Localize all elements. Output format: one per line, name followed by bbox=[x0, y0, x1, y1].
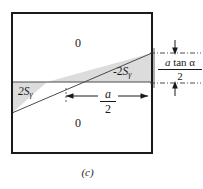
dimension-label-a-tan-alpha-over-2: a tan α 2 bbox=[158, 57, 202, 83]
right-shaded-wedge bbox=[47, 53, 152, 82]
fraction-denominator: 2 bbox=[158, 70, 202, 82]
region-label-negative-2s-gamma: -2Sγ bbox=[113, 66, 132, 79]
region-label-bottom-zero: 0 bbox=[75, 117, 81, 129]
label-subscript-gamma: γ bbox=[128, 70, 131, 79]
figure-container: 0 0 -2Sγ 2Sγ a tan α 2 a 2 (c) bbox=[0, 0, 203, 189]
numerator-tan-alpha: tan α bbox=[170, 56, 195, 68]
dimension-arrow-horizontal-right bbox=[118, 93, 148, 99]
dimension-label-a-over-2: a 2 bbox=[100, 88, 116, 115]
region-label-positive-2s-gamma: 2Sγ bbox=[18, 86, 33, 99]
label-prefix-minus-two: -2 bbox=[113, 65, 123, 77]
label-base-2s: 2S bbox=[18, 85, 30, 97]
dimension-arrow-horizontal-left bbox=[66, 93, 98, 99]
fraction-numerator: a tan α bbox=[158, 57, 202, 70]
a-over-2-numerator: a bbox=[100, 88, 116, 102]
a-over-2-denominator: 2 bbox=[100, 102, 116, 115]
label-subscript-gamma-left: γ bbox=[30, 90, 33, 99]
figure-caption: (c) bbox=[0, 167, 175, 178]
region-label-top-zero: 0 bbox=[75, 37, 81, 49]
